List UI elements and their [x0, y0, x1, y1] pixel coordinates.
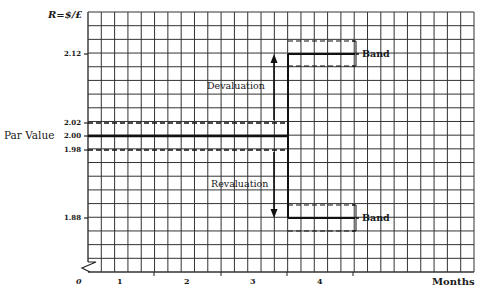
devaluation-label: Devaluation: [207, 80, 265, 91]
x-tick-4: 4: [317, 276, 323, 286]
arrow-down-icon: [271, 209, 278, 218]
y-tick-2-00: 2.00: [64, 131, 81, 140]
y-tick-1-98: 1.98: [64, 145, 81, 154]
y-tick-2-12: 2.12: [64, 49, 81, 58]
x-tick-1: 1: [117, 276, 123, 286]
revaluation-arrow: [271, 152, 278, 218]
lower-band-label: Band: [362, 212, 390, 223]
y-axis-title: R=$/£: [48, 9, 82, 20]
devaluation-band: [288, 41, 359, 66]
revaluation-label: Revaluation: [211, 178, 268, 189]
x-axis-title: Months: [432, 276, 475, 287]
upper-band-label: Band: [362, 48, 390, 59]
y-tick-2-02: 2.02: [64, 118, 81, 127]
x-tick-0: 0: [76, 276, 82, 286]
par-value-band: [88, 123, 288, 150]
x-tick-2: 2: [184, 276, 190, 286]
par-value-label: Par Value: [4, 129, 54, 141]
x-tick-3: 3: [250, 276, 256, 286]
axis-break-icon: [82, 262, 96, 272]
devaluation-arrow: [271, 54, 278, 120]
revaluation-band: [288, 205, 359, 231]
arrow-up-icon: [271, 54, 278, 63]
y-tick-1-88: 1.88: [64, 213, 81, 222]
grid: [88, 12, 474, 272]
